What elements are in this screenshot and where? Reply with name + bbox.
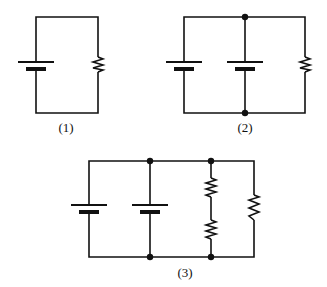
circuit-label-3: (3) xyxy=(177,265,192,280)
junction-node xyxy=(208,254,214,260)
battery-icon xyxy=(71,205,107,212)
resistor-icon xyxy=(249,195,259,220)
circuit-label-1: (1) xyxy=(58,120,73,135)
wire xyxy=(36,17,98,62)
junction-node xyxy=(147,158,153,164)
junction-node xyxy=(208,158,214,164)
circuit-1: (1) xyxy=(18,17,103,135)
circuit-3: (3) xyxy=(71,158,259,280)
resistor-icon xyxy=(300,57,310,72)
junction-node xyxy=(242,110,248,116)
battery-icon xyxy=(132,205,168,212)
circuit-2: (2) xyxy=(166,14,310,135)
wire xyxy=(89,161,254,205)
battery-icon xyxy=(227,62,263,69)
junction-node xyxy=(242,14,248,20)
battery-icon xyxy=(18,62,54,69)
resistor-icon xyxy=(206,178,216,197)
circuit-diagram-figure: (1) (2) xyxy=(0,0,327,287)
circuit-label-2: (2) xyxy=(237,120,252,135)
junction-node xyxy=(147,254,153,260)
wire xyxy=(89,212,254,257)
resistor-icon xyxy=(93,57,103,72)
wire xyxy=(36,69,98,113)
battery-icon xyxy=(166,62,202,69)
resistor-icon xyxy=(206,220,216,239)
